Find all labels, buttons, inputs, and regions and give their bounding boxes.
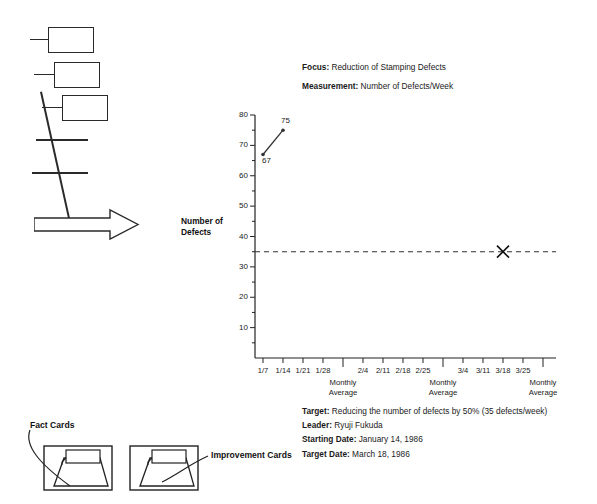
y-tick-label: 60 xyxy=(226,171,248,180)
y-tick-label: 10 xyxy=(226,323,248,332)
y-tick-label: 40 xyxy=(226,232,248,241)
worksheet-page: Focus: Reduction of Stamping Defects Mea… xyxy=(0,0,597,504)
y-tick-label: 30 xyxy=(226,262,248,271)
meta-row-value: Ryuji Fukuda xyxy=(332,420,383,430)
monthly-average-label: MonthlyAverage xyxy=(417,378,469,398)
meta-row-value: January 14, 1986 xyxy=(356,434,422,444)
monthly-average-label: MonthlyAverage xyxy=(317,378,369,398)
monthly-average-line2: Average xyxy=(417,388,469,398)
meta-row-key: Target: xyxy=(302,406,330,416)
y-tick-label: 80 xyxy=(226,110,248,119)
meta-row-key: Starting Date: xyxy=(302,434,356,444)
data-point-label: 75 xyxy=(281,116,290,125)
meta-row-key: Target Date: xyxy=(302,449,350,459)
project-meta-list: Target: Reducing the number of defects b… xyxy=(302,404,547,461)
meta-row: Starting Date: January 14, 1986 xyxy=(302,432,547,446)
x-tick-label: 1/28 xyxy=(305,366,341,375)
monthly-average-line2: Average xyxy=(317,388,369,398)
meta-row: Leader: Ryuji Fukuda xyxy=(302,418,547,432)
x-tick-label: 2/25 xyxy=(405,366,441,375)
y-tick-label: 50 xyxy=(226,201,248,210)
data-point-label: 67 xyxy=(262,156,271,165)
meta-row: Target: Reducing the number of defects b… xyxy=(302,404,547,418)
improvement-cards-label: Improvement Cards xyxy=(211,450,292,460)
meta-row-value: March 18, 1986 xyxy=(350,449,410,459)
meta-row-key: Leader: xyxy=(302,420,332,430)
x-tick-label: 3/25 xyxy=(505,366,541,375)
monthly-average-line1: Monthly xyxy=(417,378,469,388)
y-tick-label: 20 xyxy=(226,292,248,301)
card-legend: Fact Cards Improvement Cards xyxy=(18,420,268,495)
meta-row-value: Reducing the number of defects by 50% (3… xyxy=(330,406,548,416)
monthly-average-line1: Monthly xyxy=(517,378,569,388)
monthly-average-label: MonthlyAverage xyxy=(517,378,569,398)
meta-row: Target Date: March 18, 1986 xyxy=(302,447,547,461)
monthly-average-line2: Average xyxy=(517,388,569,398)
y-tick-label: 70 xyxy=(226,140,248,149)
monthly-average-line1: Monthly xyxy=(317,378,369,388)
fact-cards-label: Fact Cards xyxy=(30,420,74,430)
